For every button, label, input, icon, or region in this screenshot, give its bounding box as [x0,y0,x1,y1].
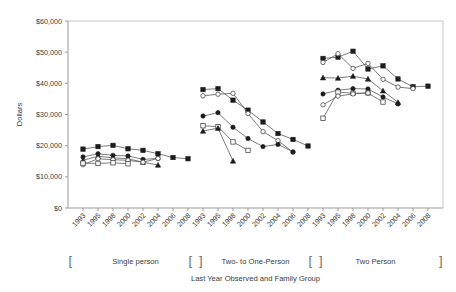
data-point-open-circle [351,66,355,70]
data-point-filled-circle [276,142,280,146]
data-point-filled-square [426,84,430,88]
series-polyline [323,89,398,104]
data-point-open-circle [261,129,265,133]
data-point-open-circle [216,92,220,96]
y-axis-tick-label: $50,000 [36,48,62,57]
x-axis-tick-label: 1998 [220,211,238,229]
data-point-open-circle [321,103,325,107]
x-axis-tick-label: 1993 [70,211,88,229]
y-axis-tick-label: $40,000 [36,79,62,88]
y-axis-tick-label: $30,000 [36,110,62,119]
series-group [320,49,430,120]
x-axis-tick-label: 2008 [295,211,313,229]
y-axis-tick-label: $20,000 [36,141,62,150]
data-point-open-circle [336,94,340,98]
y-axis-title: Dollars [15,102,24,126]
group-bracket-open: [ [308,253,312,268]
data-point-filled-triangle [230,158,235,163]
data-point-open-square [96,161,100,165]
data-point-filled-square [96,144,100,148]
x-axis-tick-label: 2006 [400,211,418,229]
data-point-filled-square [171,155,175,159]
x-axis-tick-label: 1993 [310,211,328,229]
data-point-filled-circle [231,125,235,129]
data-point-filled-square [81,147,85,151]
x-axis-tick-label: 2002 [130,211,148,229]
data-point-open-circle [396,85,400,89]
data-point-filled-square [186,157,190,161]
data-point-open-circle [366,61,370,65]
data-point-filled-square [396,77,400,81]
data-point-open-circle [411,86,415,90]
data-point-open-circle [201,94,205,98]
chart-figure: $0$10,000$20,000$30,000$40,000$50,000$60… [0,0,456,292]
group-bracket-open: [ [188,253,192,268]
cropped-title-remnant [0,0,456,9]
data-point-open-square [246,148,250,152]
x-axis-tick-label: 2008 [175,211,193,229]
data-point-filled-square [111,143,115,147]
x-axis-tick-label: 1995 [85,211,103,229]
x-axis-tick-label: 2000 [355,211,373,229]
data-point-open-square [201,124,205,128]
x-axis-tick-label: 2006 [280,211,298,229]
data-point-filled-square [216,86,220,90]
group-label: Single person [112,257,158,266]
x-axis-tick-label: 2008 [415,211,433,229]
data-point-open-circle [381,77,385,81]
data-point-filled-circle [351,86,355,90]
x-axis-tick-label: 1998 [340,211,358,229]
data-point-filled-circle [381,95,385,99]
series-3-filled-circle [201,110,295,154]
data-point-filled-square [141,148,145,152]
data-point-filled-circle [216,110,220,114]
series-4-open-square [201,124,250,153]
data-point-filled-square [306,144,310,148]
axis-lines [68,21,443,208]
series-5-filled-triangle [200,126,235,164]
x-axis-tick-label: 1995 [205,211,223,229]
x-axis-tick-label: 2004 [385,211,403,229]
data-point-filled-square [201,87,205,91]
data-point-filled-circle [246,136,250,140]
data-point-open-circle [366,91,370,95]
group-bracket-close: ] [439,253,443,268]
data-point-filled-circle [291,150,295,154]
x-axis-tick-label: 1993 [190,211,208,229]
data-point-open-square [126,162,130,166]
data-point-open-circle [156,156,160,160]
group-label: Two- to One-Person [222,257,290,266]
series-4-filled-circle [321,86,400,106]
plot-frame [68,21,443,208]
series-5-open-square [81,161,130,166]
chart-canvas: $0$10,000$20,000$30,000$40,000$50,000$60… [0,0,456,292]
data-point-open-circle [336,52,340,56]
data-point-open-square [321,116,325,120]
group-bracket-close: ] [319,253,323,268]
x-axis-tick-label: 1995 [325,211,343,229]
x-axis-tick-label: 2000 [235,211,253,229]
data-point-open-circle [351,92,355,96]
data-point-filled-triangle [350,74,355,79]
series-polyline [323,93,368,105]
series-group [80,143,190,167]
data-point-filled-square [126,147,130,151]
y-axis-tick-label: $10,000 [36,172,62,181]
data-point-filled-square [261,120,265,124]
x-axis-tick-label: 2002 [370,211,388,229]
data-point-filled-square [351,49,355,53]
x-axis-tick-label: 2000 [115,211,133,229]
data-point-filled-square [366,67,370,71]
y-axis-tick-label: $60,000 [36,17,62,26]
data-point-filled-square [231,98,235,102]
data-point-open-circle [321,60,325,64]
data-point-filled-square [276,131,280,135]
series-group [200,86,310,163]
x-axis-tick-label: 1998 [100,211,118,229]
group-bracket-close: ] [199,253,203,268]
data-point-open-circle [231,91,235,95]
x-axis-tick-label: 2002 [250,211,268,229]
data-point-open-circle [141,160,145,164]
series-polyline [83,163,128,164]
series-6-open-diamond [321,91,370,107]
